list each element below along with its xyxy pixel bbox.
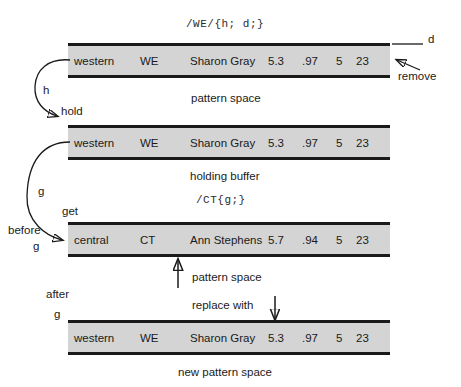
cell-n2: .94 xyxy=(302,234,318,246)
cell-n4: 23 xyxy=(356,55,369,67)
command-label-mid: /CT{g;} xyxy=(196,194,246,206)
row-pattern-space-before-g: central CT Ann Stephens 5.7 .94 5 23 xyxy=(68,222,390,257)
caption-holding-buffer: holding buffer xyxy=(190,170,259,182)
cell-n3: 5 xyxy=(336,55,342,67)
cell-name: Sharon Gray xyxy=(190,332,255,344)
arrow-remove xyxy=(397,60,420,70)
row-pattern-space-initial: western WE Sharon Gray 5.3 .97 5 23 xyxy=(68,43,390,78)
caption-pattern-space-before-g: pattern space xyxy=(192,271,262,283)
cell-n4: 23 xyxy=(356,234,369,246)
annotation-replace-with: replace with xyxy=(192,299,253,311)
annotation-get: get xyxy=(62,205,78,217)
cell-region: western xyxy=(74,137,114,149)
cell-n3: 5 xyxy=(336,137,342,149)
cell-n1: 5.7 xyxy=(268,234,284,246)
caption-new-pattern-space: new pattern space xyxy=(178,366,272,378)
annotation-remove: remove xyxy=(398,70,436,82)
caption-pattern-space-initial: pattern space xyxy=(191,92,261,104)
annotation-after-g: g xyxy=(54,308,60,320)
cell-code: WE xyxy=(140,332,159,344)
cell-region: western xyxy=(74,55,114,67)
cell-code: CT xyxy=(140,234,155,246)
cell-n3: 5 xyxy=(336,234,342,246)
annotation-after: after xyxy=(46,288,69,300)
cell-region: western xyxy=(74,332,114,344)
row-new-pattern-space: western WE Sharon Gray 5.3 .97 5 23 xyxy=(68,320,390,355)
sed-hold-get-diagram: /WE/{h; d;} western WE Sharon Gray 5.3 .… xyxy=(0,0,461,387)
cell-name: Sharon Gray xyxy=(190,55,255,67)
cell-n1: 5.3 xyxy=(268,332,284,344)
cell-code: WE xyxy=(140,137,159,149)
cell-region: central xyxy=(74,234,109,246)
annotation-before: before xyxy=(8,224,41,236)
cell-n1: 5.3 xyxy=(268,137,284,149)
cell-n2: .97 xyxy=(302,55,318,67)
cell-n3: 5 xyxy=(336,332,342,344)
cell-code: WE xyxy=(140,55,159,67)
cell-n4: 23 xyxy=(356,137,369,149)
annotation-g: g xyxy=(38,185,44,197)
cell-name: Sharon Gray xyxy=(190,137,255,149)
cell-n2: .97 xyxy=(302,137,318,149)
row-holding-buffer: western WE Sharon Gray 5.3 .97 5 23 xyxy=(68,125,390,160)
annotation-before-g: g xyxy=(33,240,39,252)
cell-n2: .97 xyxy=(302,332,318,344)
cell-n1: 5.3 xyxy=(268,55,284,67)
command-label-top: /WE/{h; d;} xyxy=(186,18,264,30)
annotation-hold: hold xyxy=(61,105,83,117)
annotation-d: d xyxy=(428,33,434,45)
annotation-h: h xyxy=(43,84,49,96)
cell-name: Ann Stephens xyxy=(190,234,262,246)
cell-n4: 23 xyxy=(356,332,369,344)
